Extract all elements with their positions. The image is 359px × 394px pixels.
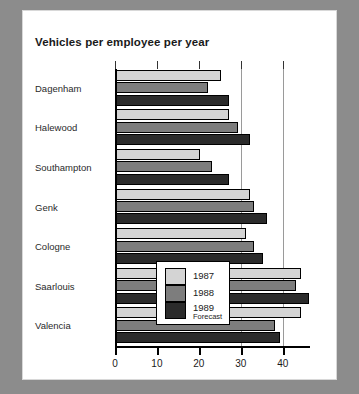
bar-halewood-1987 [116,109,229,120]
screenshot-frame: Vehicles per employee per year 010203040… [0,0,359,394]
category-label-valencia: Valencia [35,320,71,331]
bar-dagenham-1987 [116,70,221,81]
tick-top-10 [157,61,158,69]
category-label-dagenham: Dagenham [35,83,81,94]
bar-dagenham-1988 [116,82,208,93]
bar-genk-1987 [116,189,250,200]
tick-mark-20 [199,348,201,355]
tick-top-30 [241,61,242,69]
tick-top-0 [115,61,116,69]
category-label-halewood: Halewood [35,122,77,133]
tick-mark-40 [283,348,285,355]
category-label-cologne: Cologne [35,241,70,252]
bar-cologne-1987 [116,228,246,239]
category-label-genk: Genk [35,202,58,213]
x-tick-label-40: 40 [277,358,288,369]
bar-halewood-1989 [116,134,250,145]
bar-southampton-1987 [116,149,200,160]
bar-southampton-1988 [116,161,212,172]
tick-mark-30 [241,348,243,355]
x-tick-label-30: 30 [235,358,246,369]
x-tick-label-0: 0 [112,358,118,369]
legend-swatch-1987 [165,268,186,285]
legend-label-1988: 1988 [193,287,214,298]
legend-sublabel-forecast: Forecast [193,312,222,321]
legend-swatch-1988 [165,285,186,302]
category-label-southampton: Southampton [35,162,92,173]
legend-label-1987: 1987 [193,270,214,281]
tick-mark-0 [115,348,117,355]
tick-top-40 [283,61,284,69]
bar-halewood-1988 [116,122,238,133]
x-axis-line [115,346,310,348]
chart-panel: Vehicles per employee per year 010203040… [23,11,336,379]
bar-genk-1989 [116,213,267,224]
bar-dagenham-1989 [116,95,229,106]
tick-mark-10 [157,348,159,355]
page-title: Vehicles per employee per year [35,36,209,48]
bar-cologne-1988 [116,241,254,252]
x-tick-label-20: 20 [193,358,204,369]
chart-legend: 1987 1988 1989 Forecast [156,261,230,325]
legend-swatch-1989 [165,302,186,319]
bar-genk-1988 [116,201,254,212]
category-label-saarlouis: Saarlouis [35,281,75,292]
tick-top-20 [199,61,200,69]
bar-southampton-1989 [116,174,229,185]
x-tick-label-10: 10 [151,358,162,369]
gridline-40 [283,69,284,346]
bar-valencia-1989 [116,332,280,343]
